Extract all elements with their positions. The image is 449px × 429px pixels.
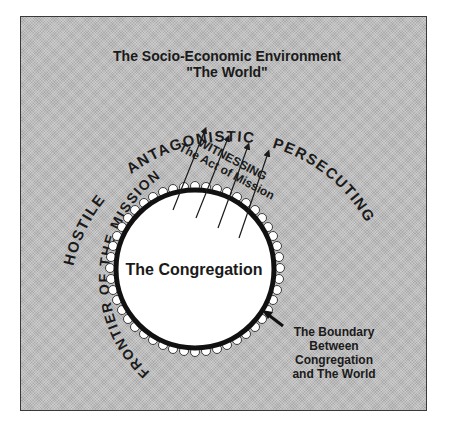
congregation-label: The Congregation <box>126 261 263 278</box>
boundary-label-line-2: Between <box>309 339 358 353</box>
hostile-label: HOSTILE <box>60 190 109 267</box>
boundary-label-line-1: The Boundary <box>294 325 375 339</box>
congregation-diagram: The Socio-Economic Environment "The Worl… <box>0 0 449 429</box>
boundary-label-line-4: and The World <box>292 367 375 381</box>
title-line-1: The Socio-Economic Environment <box>113 48 341 64</box>
boundary-label-line-3: Congregation <box>295 353 373 367</box>
title-line-2: "The World" <box>186 64 267 80</box>
persecuting-label: PERSECUTING <box>271 134 379 225</box>
